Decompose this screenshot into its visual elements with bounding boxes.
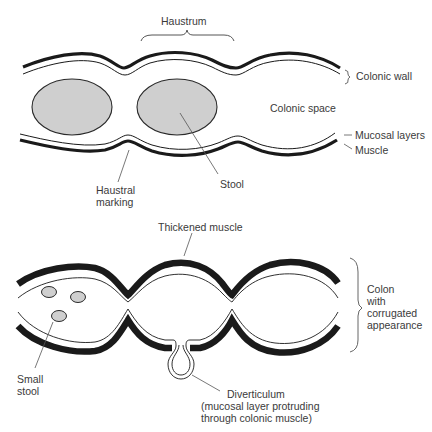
muscle-leader [344, 144, 352, 149]
label-diverticulum-1: Diverticulum [227, 388, 285, 400]
upper-mucosa [18, 274, 338, 302]
small-stool-2 [71, 292, 86, 303]
label-haustral-marking-1: Haustral [96, 184, 135, 196]
upper-mucosal-layer [23, 60, 340, 75]
label-colon-4: appearance [367, 319, 422, 331]
small-stool-3 [52, 311, 67, 322]
label-haustrum: Haustrum [161, 15, 207, 27]
label-stool: Stool [220, 178, 244, 190]
small-stool-1 [42, 287, 57, 298]
label-thickened-muscle: Thickened muscle [158, 221, 243, 233]
label-small-stool-2: stool [17, 385, 39, 397]
colonic-wall-brace [345, 70, 350, 84]
lower-thickened-muscle-right [190, 320, 338, 353]
label-haustral-marking-2: marking [96, 196, 133, 208]
lower-muscle-layer [20, 140, 337, 155]
label-muscle: Muscle [355, 144, 388, 156]
diverticulum-leader [192, 375, 220, 391]
label-colonic-space: Colonic space [270, 102, 336, 114]
colon-diagram [0, 0, 432, 432]
stool-2 [137, 79, 217, 135]
label-diverticulum-3: through colonic muscle) [201, 412, 312, 424]
label-diverticulum-2: (mucosal layer protruding [201, 400, 319, 412]
label-colon-2: with [367, 295, 386, 307]
lower-thickened-muscle-left [18, 320, 172, 352]
label-colon-3: corrugated [367, 307, 417, 319]
haustrum-brace [141, 30, 234, 41]
corrugated-colon [18, 233, 362, 391]
lower-mucosa [18, 309, 338, 379]
colon-brace [350, 258, 362, 352]
label-mucosal-layers: Mucosal layers [355, 129, 425, 141]
label-colonic-wall: Colonic wall [356, 70, 412, 82]
haustral-marking-leader [118, 150, 129, 182]
thickened-muscle-leader [184, 233, 192, 256]
label-small-stool-1: Small [17, 373, 43, 385]
stool-1 [32, 79, 112, 135]
label-colon-1: Colon [367, 283, 394, 295]
